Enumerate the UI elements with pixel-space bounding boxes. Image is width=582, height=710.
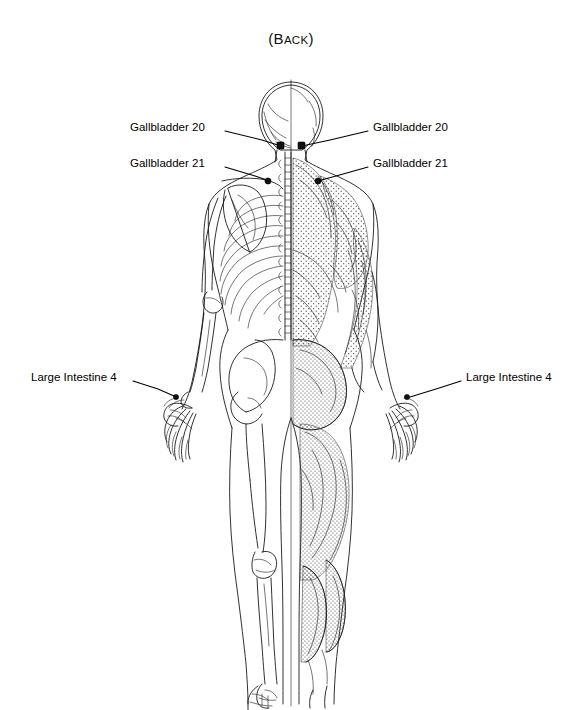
anatomical-diagram: (BACK) [0, 0, 582, 710]
leader-gb20-left [225, 131, 281, 146]
point-gb21-right [315, 178, 321, 184]
label-gallbladder-21-left: Gallbladder 21 [130, 157, 205, 170]
muscles-thigh-right [300, 424, 349, 580]
leader-li4-left [133, 381, 174, 396]
foot-right [310, 686, 327, 708]
body-illustration [0, 0, 582, 710]
label-gallbladder-20-right: Gallbladder 20 [373, 121, 448, 134]
leader-li4-right [410, 381, 461, 397]
hand-skeletal-left [164, 398, 196, 462]
pelvis-left [229, 340, 283, 481]
ribcage-left [220, 195, 283, 328]
arm-bones-left [181, 196, 226, 408]
point-gb21-left [265, 178, 271, 184]
foot-bones-left [248, 686, 272, 710]
point-li4-left [173, 394, 178, 399]
hand-muscular-right [386, 398, 418, 462]
point-gb20-left [277, 142, 284, 149]
muscles-gluteal-right [293, 340, 347, 430]
label-large-intestine-4-right: Large Intestine 4 [466, 371, 552, 384]
label-large-intestine-4-left: Large Intestine 4 [31, 371, 117, 384]
label-gallbladder-20-left: Gallbladder 20 [130, 121, 205, 134]
scapula-and-clavicle-left [222, 178, 283, 252]
label-gallbladder-21-right: Gallbladder 21 [373, 157, 448, 170]
point-gb20-right [298, 142, 305, 149]
muscles-calf-right [301, 560, 345, 694]
point-li4-right [404, 394, 409, 399]
leader-gb20-right [302, 131, 368, 146]
femur-and-leg-bones-left [250, 424, 277, 708]
